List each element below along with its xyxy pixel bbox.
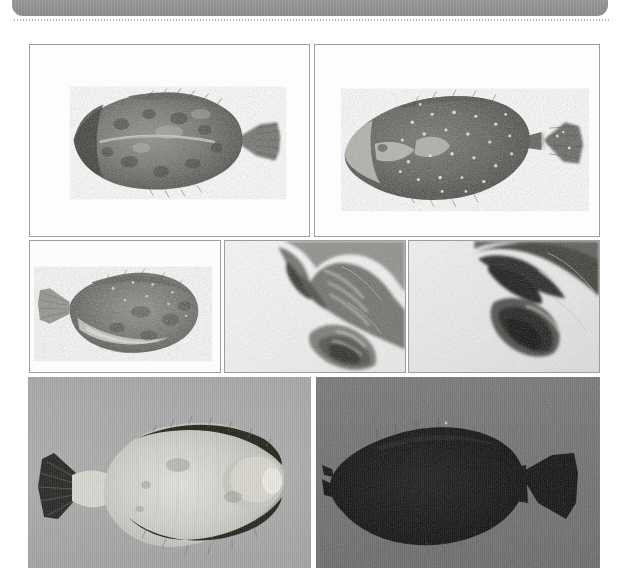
figure-panel-g[interactable]	[316, 377, 600, 568]
figure-panel-c[interactable]	[29, 240, 221, 373]
figure-panel-f[interactable]	[28, 377, 311, 568]
figure-panel-b[interactable]	[314, 44, 600, 237]
flatfish-silhouette-black-photo	[316, 377, 600, 568]
document-page	[0, 0, 623, 568]
flatfish-photo-plate	[0, 0, 623, 568]
flatfish-blind-side-pale-photo	[28, 377, 311, 568]
flatfish-dorsal-view-dark-mottled-photo	[30, 45, 309, 236]
figure-panel-e[interactable]	[408, 240, 600, 373]
figure-panel-d[interactable]	[224, 240, 406, 373]
figure-panel-a[interactable]	[29, 44, 310, 237]
fish-head-closeup-detail-photo	[225, 241, 405, 372]
flatfish-tail-left-orientation-photo	[30, 241, 220, 372]
flatfish-speckled-white-spots-photo	[315, 45, 599, 236]
fish-jaw-closeup-detail-photo	[409, 241, 599, 372]
